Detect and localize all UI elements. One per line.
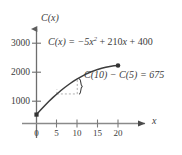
curve-start-point [34, 112, 38, 116]
difference-annotation-label: C(10) − C(5) = 675 [84, 70, 164, 80]
y-tick-label-2000: 2000 [0, 68, 30, 78]
x-tick-label-5: 5 [47, 129, 67, 138]
y-axis-label: C(x) [41, 13, 59, 23]
equation-mid: + 210 [97, 36, 123, 47]
equation-lhs: C(x) = −5 [48, 36, 89, 47]
function-graph-figure: C(x) x 3000 2000 1000 0 5 10 15 20 C(x) … [0, 0, 182, 155]
equation-rhs: + 400 [127, 36, 153, 47]
x-axis-label: x [152, 116, 156, 126]
x-tick-label-0: 0 [27, 129, 47, 138]
y-tick-label-3000: 3000 [0, 39, 30, 49]
x-tick-label-10: 10 [67, 129, 87, 138]
function-equation-label: C(x) = −5x2 + 210x + 400 [48, 37, 153, 47]
curve-end-point [116, 63, 121, 68]
x-tick-label-20: 20 [108, 129, 128, 138]
x-tick-label-15: 15 [88, 129, 108, 138]
y-tick-label-1000: 1000 [0, 97, 30, 107]
difference-brace [79, 79, 82, 94]
